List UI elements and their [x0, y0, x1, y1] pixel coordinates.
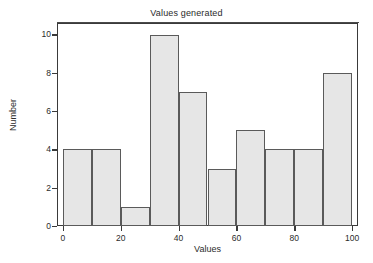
y-tick-mark: [52, 34, 57, 35]
histogram-bar: [323, 73, 352, 226]
y-tick-label: 6: [29, 107, 51, 116]
histogram-chart: Values generated 0246810 020406080100 Va…: [0, 0, 373, 263]
x-tick-label: 60: [221, 234, 251, 243]
histogram-bar: [179, 92, 208, 226]
y-axis-title: Number: [8, 80, 18, 150]
x-axis-tick-labels: 020406080100: [57, 228, 358, 242]
bars-layer: [57, 23, 358, 226]
y-tick-label: 10: [29, 30, 51, 39]
histogram-bar: [236, 130, 265, 226]
y-axis-tick-labels: 0246810: [24, 23, 51, 226]
x-tick-label: 0: [48, 234, 78, 243]
histogram-bar: [121, 207, 150, 226]
y-tick-mark: [52, 73, 57, 74]
chart-title: Values generated: [0, 8, 373, 18]
histogram-bar: [63, 149, 92, 226]
x-tick-label: 100: [337, 234, 367, 243]
histogram-bar: [150, 35, 179, 227]
y-tick-mark: [52, 111, 57, 112]
y-axis-ticks: [57, 23, 58, 226]
y-tick-label: 2: [29, 184, 51, 193]
x-axis-title: Values: [57, 244, 358, 254]
x-tick-label: 80: [279, 234, 309, 243]
histogram-bar: [265, 149, 294, 226]
x-tick-label: 20: [106, 234, 136, 243]
y-tick-mark: [52, 188, 57, 189]
histogram-bar: [294, 149, 323, 226]
y-tick-mark: [52, 149, 57, 150]
y-tick-label: 0: [29, 222, 51, 231]
y-tick-label: 8: [29, 69, 51, 78]
x-tick-label: 40: [164, 234, 194, 243]
histogram-bar: [92, 149, 121, 226]
y-tick-label: 4: [29, 145, 51, 154]
histogram-bar: [208, 169, 237, 226]
